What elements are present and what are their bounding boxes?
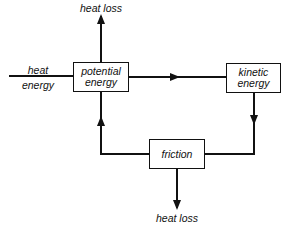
arrowhead-up-top <box>97 14 105 24</box>
arrowhead-up-left <box>97 116 105 126</box>
diagram-connectors <box>0 0 289 227</box>
kinetic-to-friction-line <box>205 93 254 154</box>
friction-to-potential-line <box>101 92 149 154</box>
heat-energy-input-label-line1: heat <box>18 64 58 76</box>
heat-loss-bottom-label: heat loss <box>153 212 201 224</box>
heat-loss-top-label: heat loss <box>77 2 125 14</box>
arrowhead-down-bottom <box>173 200 181 210</box>
heat-energy-input-label-line2: energy <box>18 79 58 91</box>
arrowhead-right <box>170 73 180 81</box>
potential-energy-node: potential energy <box>73 62 129 92</box>
potential-energy-label-line2: energy <box>85 77 117 88</box>
kinetic-energy-node: kinetic energy <box>226 63 281 93</box>
kinetic-energy-label-line2: energy <box>237 78 269 89</box>
friction-node: friction <box>149 139 205 169</box>
arrowhead-down-right <box>250 115 258 125</box>
friction-label: friction <box>162 149 193 160</box>
